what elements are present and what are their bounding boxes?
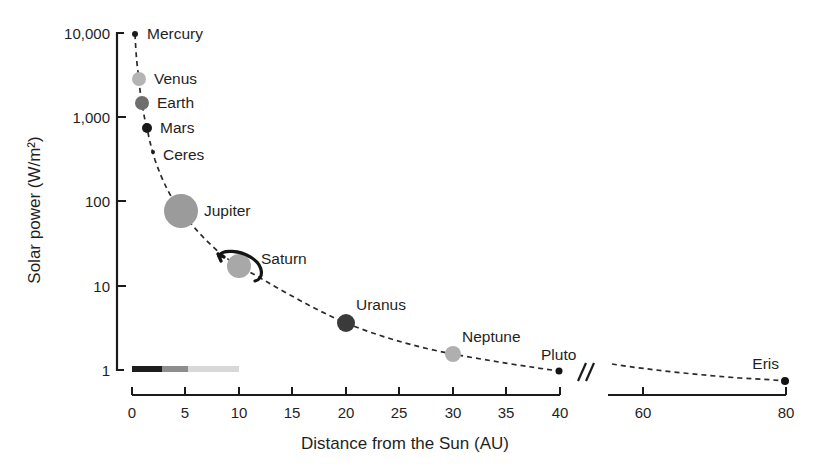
point-uranus: Uranus <box>337 296 406 332</box>
marker-eris <box>781 377 789 385</box>
y-ticklabel-10: 10 <box>93 278 110 295</box>
x-ticklabel-40: 40 <box>552 404 569 421</box>
marker-earth <box>135 96 149 110</box>
data-points: Mercury Venus Earth Mars Ceres Jupiter <box>132 25 789 385</box>
distance-shading-bar <box>132 366 239 372</box>
x-ticklabel-20: 20 <box>338 404 355 421</box>
marker-pluto <box>556 368 563 375</box>
shading-segment-inner <box>132 366 162 372</box>
label-uranus: Uranus <box>356 296 406 313</box>
point-venus: Venus <box>132 70 197 87</box>
x-ticklabel-35: 35 <box>498 404 515 421</box>
label-neptune: Neptune <box>462 328 521 345</box>
axis-break-icon <box>578 363 594 381</box>
chart-canvas: 10,000 1,000 100 10 1 Solar power (W/m²)… <box>0 0 829 470</box>
x-ticklabel-60: 60 <box>635 404 652 421</box>
label-saturn: Saturn <box>261 250 307 267</box>
label-mercury: Mercury <box>147 25 203 42</box>
label-earth: Earth <box>157 94 194 111</box>
x-ticklabel-5: 5 <box>181 404 189 421</box>
label-venus: Venus <box>154 70 197 87</box>
point-saturn: Saturn <box>218 250 307 281</box>
x-ticklabel-80: 80 <box>778 404 795 421</box>
point-mercury: Mercury <box>132 25 203 42</box>
label-mars: Mars <box>160 119 195 136</box>
y-ticklabel-1: 1 <box>102 362 110 379</box>
shading-segment-mid <box>162 366 188 372</box>
marker-saturn <box>227 254 251 278</box>
x-ticklabel-15: 15 <box>284 404 301 421</box>
y-ticklabel-100: 100 <box>85 193 110 210</box>
point-neptune: Neptune <box>445 328 521 362</box>
marker-neptune <box>445 346 461 362</box>
x-ticklabel-25: 25 <box>391 404 408 421</box>
point-mars: Mars <box>142 119 195 136</box>
marker-mercury <box>132 31 138 37</box>
marker-jupiter <box>164 194 198 228</box>
y-ticklabel-1000: 1,000 <box>72 109 110 126</box>
saturn-ring-arrow-icon <box>218 254 224 261</box>
y-axis: 10,000 1,000 100 10 1 Solar power (W/m²) <box>25 25 126 379</box>
label-ceres: Ceres <box>163 146 205 163</box>
x-ticklabel-0: 0 <box>128 404 136 421</box>
label-jupiter: Jupiter <box>204 202 251 219</box>
marker-uranus <box>337 314 355 332</box>
y-axis-title: Solar power (W/m²) <box>25 136 44 283</box>
axis-break-slash-1 <box>578 363 586 381</box>
point-eris: Eris <box>752 355 789 385</box>
point-ceres: Ceres <box>151 146 205 163</box>
marker-ceres <box>151 150 155 154</box>
x-axis-title: Distance from the Sun (AU) <box>301 434 509 453</box>
label-eris: Eris <box>752 355 779 372</box>
solar-power-chart: 10,000 1,000 100 10 1 Solar power (W/m²)… <box>0 0 829 470</box>
x-ticklabel-30: 30 <box>445 404 462 421</box>
x-axis-left: 0 5 10 15 20 25 30 35 40 <box>128 387 569 421</box>
x-ticks-left <box>132 387 560 395</box>
point-earth: Earth <box>135 94 194 111</box>
shading-segment-outer <box>188 366 239 372</box>
marker-venus <box>132 72 146 86</box>
x-axis-right: 60 80 <box>608 387 794 421</box>
x-ticklabel-10: 10 <box>231 404 248 421</box>
axis-break-slash-2 <box>586 363 594 381</box>
marker-mars <box>142 123 152 133</box>
point-jupiter: Jupiter <box>164 194 251 228</box>
point-pluto: Pluto <box>541 346 576 375</box>
y-ticklabel-10000: 10,000 <box>64 25 110 42</box>
label-pluto: Pluto <box>541 346 576 363</box>
